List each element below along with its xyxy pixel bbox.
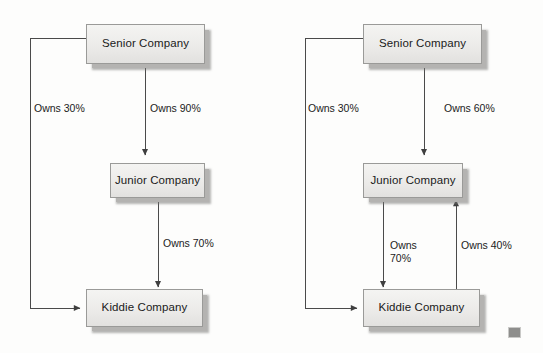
right-edge-label-owns-30: Owns 30% xyxy=(308,102,359,115)
right-node-kiddie-company[interactable]: Kiddie Company xyxy=(363,289,480,327)
left-node-junior-company[interactable]: Junior Company xyxy=(110,163,205,198)
left-node-senior-company-label: Senior Company xyxy=(102,38,189,50)
left-node-junior-company-label: Junior Company xyxy=(115,175,200,187)
diagram-canvas: Senior Company Junior Company Kiddie Com… xyxy=(0,0,543,353)
right-node-junior-company[interactable]: Junior Company xyxy=(363,163,463,198)
corner-mark xyxy=(508,327,521,338)
left-node-senior-company[interactable]: Senior Company xyxy=(86,24,205,64)
right-edge-label-owns-60: Owns 60% xyxy=(444,102,495,115)
left-node-kiddie-company-label: Kiddie Company xyxy=(102,302,188,314)
left-edge-label-owns-30: Owns 30% xyxy=(34,102,85,115)
right-node-senior-company-label: Senior Company xyxy=(379,38,466,50)
right-edge-senior-kiddie xyxy=(305,38,363,308)
left-edge-label-owns-90: Owns 90% xyxy=(150,102,201,115)
right-node-junior-company-label: Junior Company xyxy=(370,175,455,187)
right-edge-label-owns-70: Owns 70% xyxy=(390,239,417,265)
right-edge-label-owns-40: Owns 40% xyxy=(461,239,512,252)
left-node-kiddie-company[interactable]: Kiddie Company xyxy=(86,289,203,327)
left-edge-senior-kiddie xyxy=(30,38,86,308)
left-edge-label-owns-70: Owns 70% xyxy=(163,237,214,250)
right-node-kiddie-company-label: Kiddie Company xyxy=(379,302,465,314)
right-node-senior-company[interactable]: Senior Company xyxy=(363,24,482,64)
